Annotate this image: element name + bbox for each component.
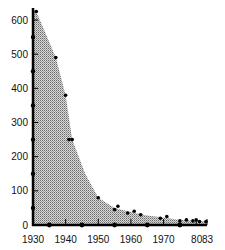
x-axis-marker — [145, 223, 150, 228]
data-point — [194, 218, 198, 222]
x-tick-label: 1930 — [22, 234, 45, 245]
x-tick-label: 83 — [202, 234, 214, 245]
data-point — [64, 93, 68, 97]
data-point — [198, 220, 202, 224]
y-tick-label: 400 — [11, 83, 28, 94]
x-tick-label: 1960 — [120, 234, 143, 245]
stippled-area — [33, 10, 206, 225]
data-point — [35, 10, 39, 14]
y-axis-marker — [31, 35, 35, 39]
data-point — [97, 196, 101, 200]
data-point — [185, 218, 189, 222]
y-axis-marker — [31, 172, 35, 176]
y-tick-label: 300 — [11, 117, 28, 128]
y-axis-marker — [31, 137, 35, 141]
x-tick-label: 1950 — [87, 234, 110, 245]
y-tick-label: 500 — [11, 49, 28, 60]
data-point — [165, 215, 169, 219]
data-point — [126, 211, 130, 215]
y-axis-marker — [31, 69, 35, 73]
data-point — [70, 138, 74, 142]
y-axis-tick-labels: 0100200300400500600 — [11, 15, 28, 231]
area-chart: 0100200300400500600 19301940195019601970… — [0, 0, 225, 250]
x-axis-marker — [80, 223, 85, 228]
y-tick-label: 200 — [11, 151, 28, 162]
x-tick-label: 80 — [191, 234, 203, 245]
x-axis-tick-labels: 193019401950196019708083 — [22, 234, 214, 245]
data-point — [139, 213, 143, 217]
data-point — [191, 219, 195, 223]
y-tick-label: 600 — [11, 15, 28, 26]
y-tick-label: 0 — [22, 220, 28, 231]
data-point — [159, 216, 163, 220]
y-tick-label: 100 — [11, 185, 28, 196]
data-point — [113, 208, 117, 212]
x-tick-label: 1940 — [55, 234, 78, 245]
data-point — [116, 204, 120, 208]
data-point — [204, 220, 208, 224]
area-fill — [33, 10, 206, 225]
y-axis-marker — [31, 103, 35, 107]
x-axis-marker — [177, 223, 182, 228]
data-point — [67, 138, 71, 142]
x-axis-marker — [47, 223, 52, 228]
data-point — [54, 56, 58, 60]
y-axis-marker — [31, 206, 35, 210]
data-point — [178, 219, 182, 223]
x-axis-marker — [112, 223, 117, 228]
x-tick-label: 1970 — [152, 234, 175, 245]
data-point — [132, 210, 136, 214]
